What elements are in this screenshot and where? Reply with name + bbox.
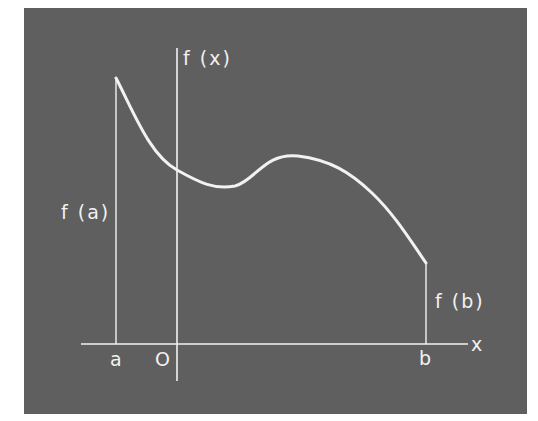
x-axis-label: x xyxy=(471,335,484,354)
function-curve xyxy=(116,78,426,263)
origin-label: O xyxy=(155,350,172,369)
b-label: b xyxy=(419,349,433,368)
f-b-label: f (b) xyxy=(435,292,485,311)
f-a-label: f (a) xyxy=(61,203,110,222)
a-label: a xyxy=(110,350,124,369)
y-axis-label: f (x) xyxy=(183,49,232,68)
